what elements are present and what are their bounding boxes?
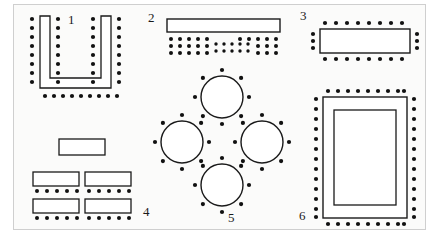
round-table-top — [201, 76, 243, 118]
classroom-table-r2-left — [33, 199, 79, 213]
layout-number-5: 5 — [228, 211, 235, 224]
u-shape-table — [40, 16, 111, 88]
classroom-head-table — [59, 139, 105, 155]
layout-5-banquet-rounds — [153, 68, 291, 214]
theater-head-table — [167, 19, 280, 32]
boardroom-table — [320, 29, 410, 53]
round-table-right — [241, 121, 283, 163]
layout-number-3: 3 — [300, 9, 307, 22]
layout-2-theater — [167, 19, 280, 55]
round-table-left — [161, 121, 203, 163]
diagram-page: 1 2 3 4 5 6 — [0, 0, 440, 246]
classroom-table-r2-right — [85, 199, 131, 213]
theater-seats — [169, 37, 278, 55]
layout-number-2: 2 — [148, 11, 155, 24]
floor-plan-canvas — [0, 0, 440, 246]
layout-number-6: 6 — [299, 209, 306, 222]
classroom-table-r1-right — [85, 172, 131, 186]
layout-1-u-shape — [30, 16, 121, 98]
layout-number-1: 1 — [68, 13, 75, 26]
layout-number-4: 4 — [143, 205, 150, 218]
hollow-square-inner — [334, 110, 396, 205]
layout-6-hollow-square — [314, 89, 416, 226]
layout-3-boardroom — [311, 21, 419, 61]
layout-4-classroom — [33, 139, 131, 220]
classroom-table-r1-left — [33, 172, 79, 186]
round-table-bottom — [201, 164, 243, 206]
